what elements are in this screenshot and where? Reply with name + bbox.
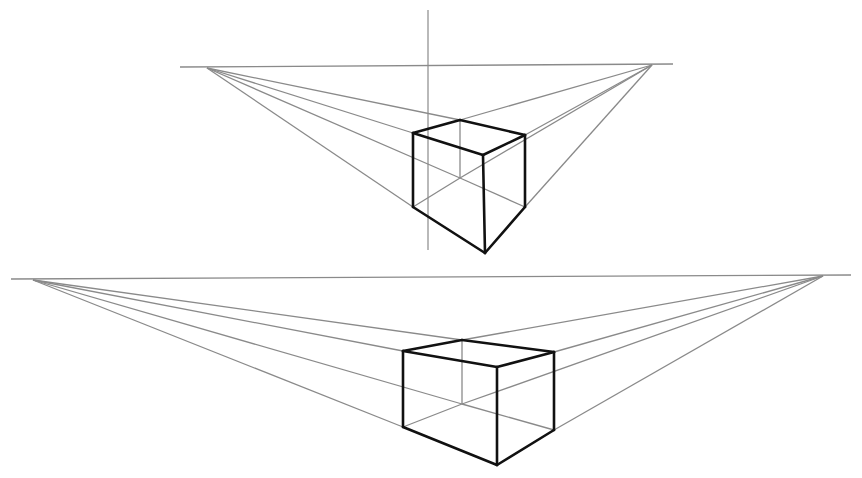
hidden-edge [413,178,460,207]
drawing-top [180,10,673,253]
vanishing-line-left [33,280,403,427]
cube-edge [403,427,497,465]
cube-edge [403,351,497,367]
vanishing-line-right [554,276,823,430]
vanishing-line-right [460,65,652,178]
vanishing-line-left [207,68,460,178]
vanishing-line-right [462,276,823,404]
cube-edge [413,133,483,155]
cube-edge [413,207,485,253]
hidden-edge [403,404,462,427]
vanishing-line-right [554,276,823,352]
hidden-edge [462,404,554,430]
cube-edge [485,207,525,253]
vanishing-line-right [462,276,823,340]
hidden-edge [460,178,525,207]
cube-edge [460,120,525,135]
vanishing-line-left [33,280,403,351]
horizon-line [180,64,673,67]
vanishing-line-right [460,65,652,120]
vanishing-line-left [33,280,462,340]
cube-edge [403,340,462,351]
cube-edge [497,430,554,465]
vanishing-line-left [207,68,413,133]
drawing-bottom [11,275,851,465]
cube-edge [497,352,554,367]
cube-edge [413,120,460,133]
vanishing-line-right [525,65,652,207]
perspective-diagram [0,0,862,478]
vanishing-line-left [33,280,462,404]
cube-edge [483,155,485,253]
horizon-line [11,275,851,279]
cube-edge [462,340,554,352]
